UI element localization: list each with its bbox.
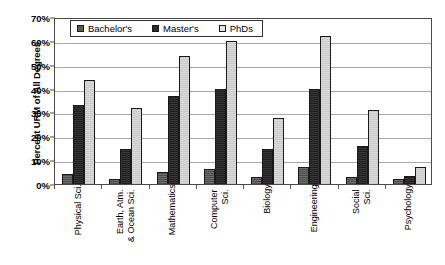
bar — [73, 105, 84, 184]
bar — [404, 176, 415, 184]
x-axis-label-text: Biology — [261, 184, 272, 258]
bar-chart: Percent URM of All Degrees 0%10%20%30%40… — [0, 0, 445, 265]
x-axis-label-text: Social Sci. — [351, 190, 372, 264]
bar — [62, 174, 73, 184]
bar — [215, 89, 226, 184]
legend-swatch-icon — [152, 25, 159, 32]
bar-group — [386, 19, 433, 184]
legend-item: Bachelor's — [77, 23, 132, 34]
chart-legend: Bachelor'sMaster'sPhDs — [70, 20, 263, 37]
y-tick-label: 70% — [8, 13, 50, 24]
x-tick-mark — [101, 185, 102, 189]
y-tick-label: 0% — [8, 180, 50, 191]
bar — [226, 41, 237, 184]
y-tick-label: 20% — [8, 132, 50, 143]
bar — [320, 36, 331, 184]
bar — [368, 110, 379, 184]
y-tick-label: 30% — [8, 108, 50, 119]
y-tick-label: 40% — [8, 84, 50, 95]
x-axis-label-text: Psychology — [403, 184, 414, 258]
x-tick-mark — [338, 185, 339, 189]
bar — [346, 177, 357, 184]
bar-group — [339, 19, 386, 184]
y-tick-label: 60% — [8, 36, 50, 47]
bar — [157, 172, 168, 184]
bar — [415, 167, 426, 184]
bar — [357, 146, 368, 184]
bar-group — [244, 19, 291, 184]
x-tick-mark — [196, 185, 197, 189]
x-axis-labels: Physical Sci.Earth, Atm. & Ocean Sci.Mat… — [54, 190, 432, 264]
plot-area — [54, 18, 432, 185]
x-axis-label: Psychology — [371, 190, 445, 264]
legend-label: PhDs — [230, 23, 253, 34]
legend-swatch-icon — [77, 25, 84, 32]
y-tick-label: 10% — [8, 156, 50, 167]
bar — [251, 177, 262, 184]
bar-group — [55, 19, 102, 184]
legend-label: Master's — [163, 23, 199, 34]
legend-swatch-icon — [219, 25, 226, 32]
bar — [168, 96, 179, 184]
bar — [109, 179, 120, 184]
x-tick-mark — [149, 185, 150, 189]
bar — [131, 108, 142, 184]
bar — [273, 118, 284, 184]
bar — [84, 80, 95, 184]
bars-layer — [55, 19, 431, 184]
legend-item: Master's — [152, 23, 199, 34]
x-tick-mark — [290, 185, 291, 189]
bar — [298, 167, 309, 184]
x-axis-label-text: Mathematics — [167, 184, 178, 258]
bar — [120, 149, 131, 184]
x-axis-label-text: Earth, Atm. & Ocean Sci. — [114, 190, 135, 264]
legend-item: PhDs — [219, 23, 253, 34]
bar-group — [150, 19, 197, 184]
x-tick-mark — [243, 185, 244, 189]
y-axis-title: Percent URM of All Degrees — [31, 14, 42, 194]
bar — [262, 149, 273, 184]
bar-group — [197, 19, 244, 184]
bar — [309, 89, 320, 184]
bar — [179, 56, 190, 184]
legend-label: Bachelor's — [88, 23, 132, 34]
x-tick-mark — [54, 185, 55, 189]
x-axis-label-text: Engineering — [309, 184, 320, 258]
y-tick-label: 50% — [8, 60, 50, 71]
bar-group — [102, 19, 149, 184]
x-tick-mark — [385, 185, 386, 189]
x-axis-label-text: Physical Sci. — [72, 184, 83, 258]
bar — [204, 169, 215, 185]
x-axis-label-text: Computer Sci. — [209, 190, 230, 264]
bar-group — [291, 19, 338, 184]
